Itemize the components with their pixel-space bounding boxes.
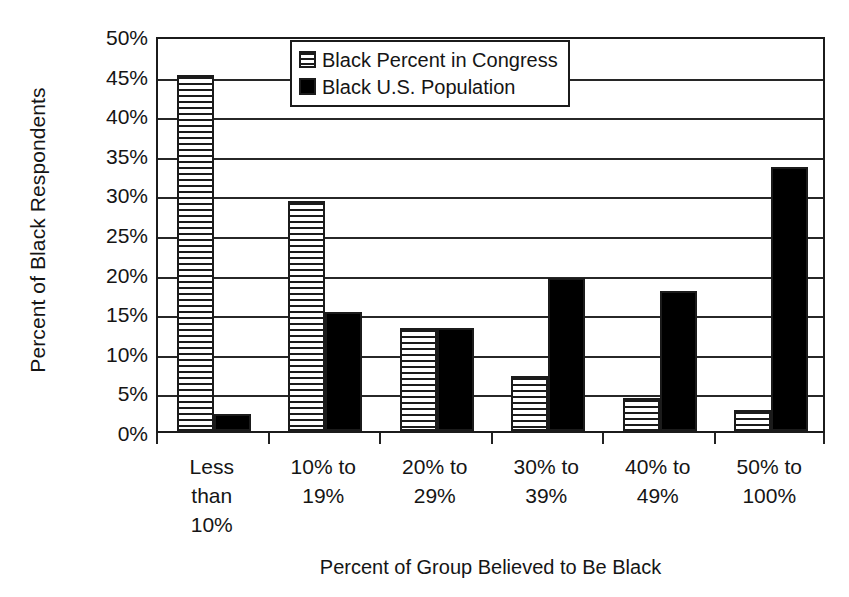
x-axis-category-label-line: 39% [491,481,603,510]
y-axis-tick-label: 5% [44,383,148,404]
y-axis-tick-label: 35% [44,145,148,166]
bar [325,312,362,431]
x-axis-category-label-line: Less [156,452,268,481]
legend-item-label: Black Percent in Congress [322,50,558,70]
x-axis-category-label: 40% to49% [602,452,714,510]
bar [660,291,697,431]
y-axis-tick-label: 50% [44,27,148,48]
bar [400,328,437,431]
chart-legend: Black Percent in CongressBlack U.S. Popu… [290,40,570,107]
x-axis-tick [379,433,381,444]
y-axis-tick-label: 25% [44,225,148,246]
x-axis-category-label-line: 100% [714,481,826,510]
x-axis-category-label: 30% to39% [491,452,603,510]
x-axis-tick [268,433,270,444]
bar [734,410,771,431]
x-axis-title: Percent of Group Believed to Be Black [156,556,825,579]
bar [437,328,474,431]
x-axis-category-label: 50% to100% [714,452,826,510]
x-axis-tick [156,433,158,444]
y-axis-tick-label: 45% [44,66,148,87]
y-axis-tick-label: 10% [44,343,148,364]
x-axis-category-label-line: 50% to [714,452,826,481]
x-axis-tick-labels: Lessthan10%10% to19%20% to29%30% to39%40… [156,452,825,548]
y-axis-tick-label: 30% [44,185,148,206]
x-axis-tick [714,433,716,444]
x-axis-category-label: 10% to19% [268,452,380,510]
y-axis-tick-label: 40% [44,106,148,127]
legend-item: Black U.S. Population [299,73,558,100]
x-axis-tick [823,433,825,444]
x-axis-category-label-line: than [156,481,268,510]
bar-group [177,39,251,431]
y-axis-tick-label: 15% [44,304,148,325]
x-axis-category-label-line: 10% [156,510,268,539]
bar [511,376,548,431]
hatched-swatch-icon [299,51,316,68]
bar [771,167,808,431]
bar [623,398,660,431]
bar [548,278,585,431]
x-axis-category-label-line: 10% to [268,452,380,481]
x-axis-category-label-line: 19% [268,481,380,510]
y-axis-tick-label: 0% [44,423,148,444]
y-axis-tick-label: 20% [44,264,148,285]
legend-item-label: Black U.S. Population [322,77,515,97]
y-axis-tick-labels: 0%5%10%15%20%25%30%35%40%45%50% [44,0,148,597]
bar-chart: Percent of Black Respondents 0%5%10%15%2… [0,0,849,597]
x-axis-category-label-line: 49% [602,481,714,510]
x-axis-category-label: Lessthan10% [156,452,268,539]
bar [177,75,214,431]
solid-black-swatch-icon [299,78,316,95]
x-axis-category-label: 20% to29% [379,452,491,510]
x-axis-category-label-line: 30% to [491,452,603,481]
x-axis-category-label-line: 29% [379,481,491,510]
bar-group [734,39,808,431]
x-axis-ticks [156,433,825,445]
x-axis-tick [491,433,493,444]
bar-group [623,39,697,431]
legend-item: Black Percent in Congress [299,46,558,73]
bar [214,414,251,431]
x-axis-category-label-line: 40% to [602,452,714,481]
bar [288,201,325,431]
x-axis-category-label-line: 20% to [379,452,491,481]
x-axis-tick [602,433,604,444]
